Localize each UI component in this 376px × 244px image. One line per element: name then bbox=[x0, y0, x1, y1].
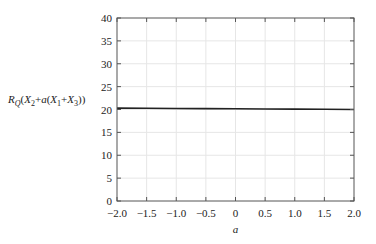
y-tick-label: 20 bbox=[101, 104, 113, 116]
x-tick-label: 0.5 bbox=[258, 207, 272, 219]
ylabel-x2: X bbox=[24, 93, 31, 105]
x-tick-labels: −2.0−1.5−1.0−0.500.51.01.52.0 bbox=[107, 207, 361, 219]
x-tick-label: −1.5 bbox=[137, 207, 157, 219]
y-tick-label: 30 bbox=[101, 58, 113, 70]
y-tick-label: 0 bbox=[107, 195, 113, 207]
ylabel-x3: X bbox=[67, 93, 74, 105]
x-axis-label: a bbox=[233, 223, 239, 235]
y-tick-label: 35 bbox=[101, 35, 113, 47]
x-tick-label: 2.0 bbox=[347, 207, 361, 219]
y-tick-label: 5 bbox=[107, 172, 113, 184]
y-tick-labels: 0510152025303540 bbox=[101, 12, 113, 207]
x-tick-label: 1.5 bbox=[318, 207, 332, 219]
x-tick-label: 0 bbox=[233, 207, 239, 219]
x-tick-label: −1.0 bbox=[166, 207, 186, 219]
y-axis-label: RQ(X2+a(X1+X3)) bbox=[8, 93, 85, 108]
x-tick-label: −0.5 bbox=[196, 207, 216, 219]
x-tick-label: 1.0 bbox=[288, 207, 302, 219]
ylabel-close: )) bbox=[78, 93, 85, 105]
x-tick-label: −2.0 bbox=[107, 207, 127, 219]
chart: −2.0−1.5−1.0−0.500.51.01.52.0 0510152025… bbox=[0, 0, 376, 244]
y-tick-label: 15 bbox=[101, 126, 113, 138]
y-tick-label: 40 bbox=[101, 12, 113, 24]
y-tick-label: 25 bbox=[101, 81, 113, 93]
ylabel-r: R bbox=[8, 93, 15, 105]
y-tick-label: 10 bbox=[101, 149, 113, 161]
